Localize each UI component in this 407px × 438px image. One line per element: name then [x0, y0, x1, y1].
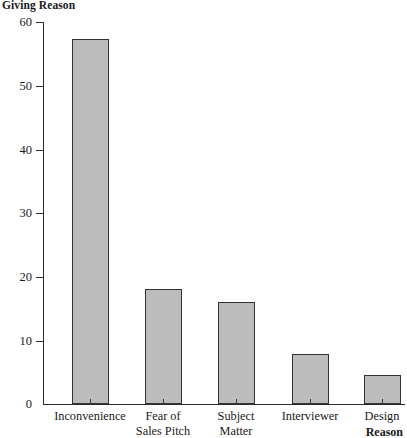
- x-tick-3: [236, 399, 237, 405]
- y-tick-20: [36, 277, 43, 278]
- y-tick-50: [36, 86, 43, 87]
- y-tick-label-10: 10: [0, 335, 32, 348]
- y-tick-label-40: 40: [0, 144, 32, 157]
- x-tick-2: [163, 399, 164, 405]
- y-tick-label-60: 60: [0, 16, 32, 29]
- x-axis-caption: Reason: [366, 425, 403, 438]
- y-tick-30: [36, 213, 43, 214]
- y-tick-60: [36, 22, 43, 23]
- bar-subject-matter: [218, 302, 255, 404]
- y-tick-40: [36, 150, 43, 151]
- x-tick-1: [90, 399, 91, 405]
- x-tick-4: [310, 399, 311, 405]
- y-axis-line: [43, 22, 44, 405]
- y-tick-label-0: 0: [0, 398, 32, 411]
- x-tick-5: [382, 399, 383, 405]
- x-label-design: Design: [342, 409, 407, 424]
- bar-fear-of-sales-pitch: [145, 289, 182, 404]
- y-tick-label-20: 20: [0, 271, 32, 284]
- x-axis-line: [43, 404, 405, 405]
- chart-title: Giving Reason: [2, 0, 75, 12]
- y-tick-label-30: 30: [0, 207, 32, 220]
- bar-chart: Giving Reason 60 50 40 30 20 10 0 Inconv…: [0, 0, 407, 438]
- y-tick-label-50: 50: [0, 80, 32, 93]
- y-tick-10: [36, 341, 43, 342]
- bar-inconvenience: [72, 39, 109, 404]
- bar-interviewer: [292, 354, 329, 404]
